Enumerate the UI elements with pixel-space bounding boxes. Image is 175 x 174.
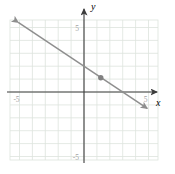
coordinate-plane: -555-5 y x bbox=[0, 0, 175, 174]
x-tick-label: 5 bbox=[144, 95, 148, 104]
plotted-line bbox=[18, 22, 147, 108]
axes bbox=[7, 9, 157, 163]
graph-figure: -555-5 y x bbox=[0, 0, 175, 174]
x-tick-label: -5 bbox=[13, 95, 19, 104]
plotted-line-group bbox=[18, 22, 147, 108]
plotted-point bbox=[98, 75, 103, 80]
y-tick-label: -5 bbox=[73, 153, 79, 162]
plotted-point-group bbox=[98, 75, 103, 80]
y-tick-label: 5 bbox=[75, 24, 79, 33]
y-axis-label: y bbox=[90, 1, 96, 12]
x-axis-label: x bbox=[155, 97, 161, 108]
